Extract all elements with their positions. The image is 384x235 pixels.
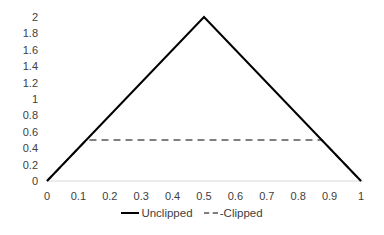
y-tick-label: 0.2 <box>23 159 38 171</box>
x-tick-label: 0.8 <box>291 190 306 202</box>
series-lines <box>47 17 361 181</box>
y-tick-label: 1.6 <box>23 44 38 56</box>
x-tick-label: 0.5 <box>196 190 211 202</box>
legend: Unclipped -Clipped <box>0 206 384 219</box>
x-tick-label: 0.3 <box>134 190 149 202</box>
y-tick-label: 2 <box>32 11 38 23</box>
x-tick-label: 0.9 <box>322 190 337 202</box>
y-tick-label: 0 <box>32 175 38 187</box>
y-tick-label: 0.4 <box>23 142 38 154</box>
chart-canvas: 00.20.40.60.811.21.41.61.82 00.10.20.30.… <box>0 0 384 235</box>
legend-clipped: -Clipped <box>220 207 263 219</box>
y-tick-label: 0.6 <box>23 126 38 138</box>
x-tick-label: 0.1 <box>71 190 86 202</box>
y-axis-ticks: 00.20.40.60.811.21.41.61.82 <box>23 11 38 187</box>
clipped-swatch-icon <box>204 212 218 214</box>
x-tick-label: 0.2 <box>102 190 117 202</box>
y-tick-label: 1.8 <box>23 27 38 39</box>
x-tick-label: 1 <box>358 190 364 202</box>
legend-unclipped: Unclipped <box>141 207 192 219</box>
x-axis-ticks: 00.10.20.30.40.50.60.70.80.91 <box>44 190 364 202</box>
clipped-line <box>47 140 361 181</box>
x-tick-label: 0 <box>44 190 50 202</box>
y-tick-label: 1.4 <box>23 60 38 72</box>
x-tick-label: 0.7 <box>259 190 274 202</box>
unclipped-line <box>47 17 361 181</box>
x-tick-label: 0.4 <box>165 190 180 202</box>
unclipped-swatch-icon <box>121 212 139 214</box>
y-tick-label: 1.2 <box>23 77 38 89</box>
y-tick-label: 0.8 <box>23 109 38 121</box>
y-tick-label: 1 <box>32 93 38 105</box>
x-tick-label: 0.6 <box>228 190 243 202</box>
